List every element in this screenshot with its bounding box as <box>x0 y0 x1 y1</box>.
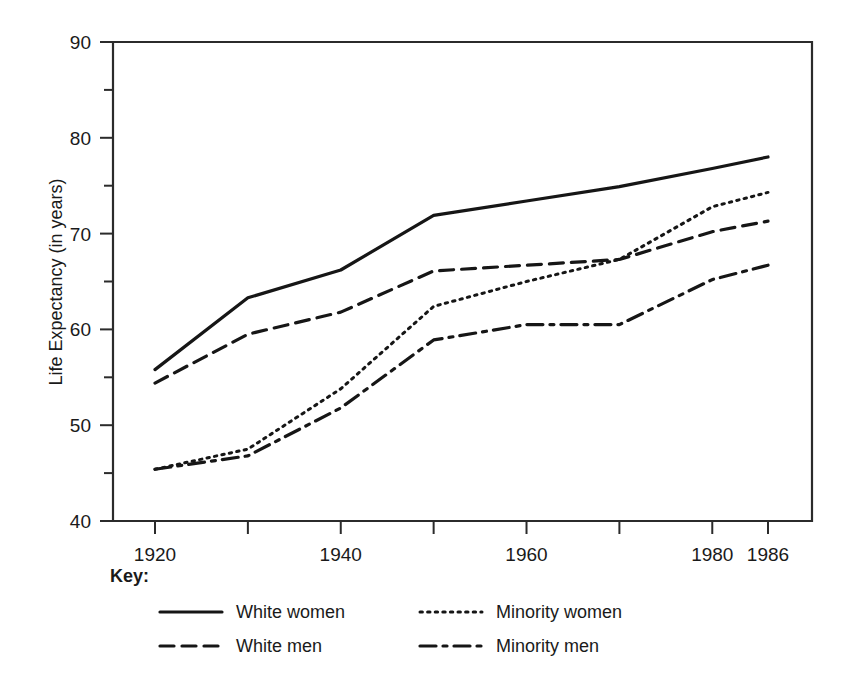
x-tick-label-1960: 1960 <box>505 544 547 565</box>
y-axis-tick-labels: 405060708090 <box>70 32 91 532</box>
legend-entry-minority-men: Minority men <box>420 636 599 656</box>
x-tick-label-1940: 1940 <box>320 544 362 565</box>
x-axis-ticks <box>155 521 768 534</box>
y-tick-label-50: 50 <box>70 415 91 436</box>
x-tick-label-1920: 1920 <box>134 544 176 565</box>
y-tick-label-40: 40 <box>70 511 91 532</box>
plot-frame <box>113 42 812 521</box>
x-axis-tick-labels: 19201940196019801986 <box>134 544 789 565</box>
legend-label: Minority men <box>496 636 599 656</box>
x-tick-label-1986: 1986 <box>747 544 789 565</box>
y-tick-label-60: 60 <box>70 319 91 340</box>
x-tick-label-1980: 1980 <box>691 544 733 565</box>
legend-entry-white-men: White men <box>160 636 322 656</box>
y-tick-label-70: 70 <box>70 224 91 245</box>
plot-border <box>113 42 812 521</box>
legend-entry-white-women: White women <box>160 602 345 622</box>
chart-legend: Key: White womenWhite menMinority womenM… <box>110 566 622 656</box>
series-line-minority-women <box>155 192 768 469</box>
y-tick-label-90: 90 <box>70 32 91 53</box>
series-line-minority-men <box>155 265 768 469</box>
y-axis-ticks <box>100 42 113 521</box>
series-line-white-women <box>155 157 768 370</box>
legend-label: Minority women <box>496 602 622 622</box>
series-line-white-men <box>155 221 768 383</box>
legend-heading: Key: <box>110 566 149 586</box>
y-tick-label-80: 80 <box>70 128 91 149</box>
legend-entries: White womenWhite menMinority womenMinori… <box>160 602 622 656</box>
y-axis-title: Life Expectancy (in years) <box>46 178 66 385</box>
legend-entry-minority-women: Minority women <box>420 602 622 622</box>
legend-label: White women <box>236 602 345 622</box>
line-chart: Life Expectancy (in years) 405060708090 … <box>0 0 856 683</box>
legend-label: White men <box>236 636 322 656</box>
chart-figure: Life Expectancy (in years) 405060708090 … <box>0 0 856 683</box>
y-axis-title-label: Life Expectancy (in years) <box>46 178 66 385</box>
series-lines <box>155 157 768 469</box>
